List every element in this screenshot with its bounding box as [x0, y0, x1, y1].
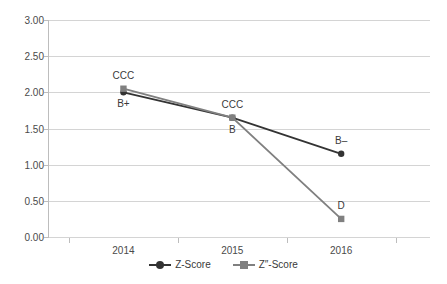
legend-label: Z-Score	[175, 259, 211, 270]
chart-legend: Z-ScoreZ″-Score	[0, 259, 447, 270]
x-axis-tick	[396, 238, 397, 243]
x-axis-tick-label: 2016	[330, 245, 352, 256]
gridline	[48, 237, 430, 238]
gridline	[48, 201, 430, 202]
data-point-rating-label: CCC	[221, 99, 243, 110]
gridline	[48, 165, 430, 166]
legend-marker-icon	[149, 260, 171, 270]
legend-item-2[interactable]: Z″-Score	[233, 259, 298, 270]
data-point-rating-label: B+	[117, 98, 130, 109]
x-axis-tick-label: 2014	[112, 245, 134, 256]
gridline	[48, 92, 430, 93]
x-axis-tick	[287, 238, 288, 243]
legend-label: Z″-Score	[259, 259, 298, 270]
legend-marker-icon	[233, 260, 255, 270]
data-point-rating-label: B	[229, 124, 236, 135]
plot-area	[48, 20, 430, 237]
y-axis-tick-label: 2.50	[4, 51, 44, 62]
legend-item-1[interactable]: Z-Score	[149, 259, 211, 270]
y-axis-tick-label: 1.00	[4, 159, 44, 170]
gridline	[48, 56, 430, 57]
y-axis-tick	[44, 92, 49, 93]
z-score-line-chart: 0.000.501.001.502.002.503.00 20142015201…	[0, 0, 447, 284]
y-axis-tick	[44, 20, 49, 21]
gridline	[48, 129, 430, 130]
y-axis-tick-label: 3.00	[4, 15, 44, 26]
y-axis-labels: 0.000.501.001.502.002.503.00	[0, 0, 44, 284]
y-axis-tick-label: 0.50	[4, 195, 44, 206]
data-point-rating-label: D	[338, 200, 345, 211]
y-axis-tick	[44, 129, 49, 130]
y-axis-tick	[44, 56, 49, 57]
x-axis-tick	[178, 238, 179, 243]
y-axis-tick-label: 1.50	[4, 123, 44, 134]
x-axis-tick-label: 2015	[221, 245, 243, 256]
data-point-rating-label: CCC	[113, 70, 135, 81]
data-point-rating-label: B–	[335, 135, 347, 146]
y-axis-tick	[44, 237, 49, 238]
y-axis-tick-label: 2.00	[4, 87, 44, 98]
y-axis-tick-label: 0.00	[4, 232, 44, 243]
y-axis-tick	[44, 165, 49, 166]
x-axis-tick	[69, 238, 70, 243]
gridline	[48, 20, 430, 21]
y-axis-tick	[44, 201, 49, 202]
